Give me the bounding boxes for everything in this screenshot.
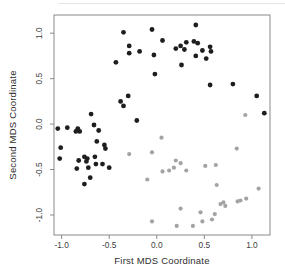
- data-point-cluster-dark: [134, 118, 139, 123]
- y-tick-label: 0.5: [34, 72, 44, 84]
- data-point-cluster-gray: [238, 198, 242, 202]
- data-point-cluster-dark: [178, 44, 183, 49]
- data-point-cluster-dark: [65, 125, 70, 130]
- data-point-cluster-dark: [57, 156, 62, 161]
- data-point-cluster-dark: [208, 44, 213, 49]
- y-tick-label: 0.0: [34, 118, 44, 130]
- data-point-cluster-dark: [121, 104, 126, 109]
- data-point-cluster-dark: [231, 82, 236, 87]
- data-point-cluster-gray: [174, 158, 178, 162]
- data-point-cluster-dark: [153, 72, 158, 77]
- data-point-cluster-gray: [160, 169, 164, 173]
- data-point-cluster-dark: [204, 56, 209, 61]
- data-point-cluster-dark: [84, 159, 89, 164]
- data-point-cluster-gray: [203, 164, 207, 168]
- data-point-cluster-dark: [209, 49, 214, 54]
- data-point-cluster-dark: [93, 154, 98, 159]
- data-point-cluster-gray: [221, 200, 225, 204]
- mds-scatter-figure: -1.0-0.50.00.51.0-1.0-0.50.00.51.0 First…: [0, 0, 285, 278]
- data-point-cluster-gray: [127, 152, 131, 156]
- data-point-cluster-gray: [145, 177, 149, 181]
- data-point-cluster-gray: [210, 217, 214, 221]
- data-point-cluster-dark: [150, 27, 155, 32]
- data-point-cluster-dark: [58, 145, 63, 150]
- data-point-cluster-dark: [127, 44, 132, 49]
- data-point-cluster-dark: [121, 30, 126, 35]
- data-point-cluster-gray: [235, 147, 239, 151]
- data-point-cluster-dark: [96, 128, 101, 133]
- data-point-cluster-dark: [262, 111, 267, 116]
- data-point-cluster-dark: [127, 51, 132, 56]
- data-point-cluster-dark: [195, 41, 200, 46]
- data-point-cluster-dark: [126, 94, 131, 99]
- x-tick-label: 0.0: [151, 240, 163, 250]
- data-point-cluster-dark: [92, 123, 97, 128]
- data-point-cluster-gray: [243, 113, 247, 117]
- data-point-cluster-gray: [179, 207, 183, 211]
- data-point-cluster-dark: [100, 162, 105, 167]
- data-point-cluster-gray: [191, 224, 195, 228]
- data-point-cluster-gray: [213, 212, 217, 216]
- data-point-cluster-gray: [244, 197, 248, 201]
- x-axis-title: First MDS Coordinate: [114, 255, 209, 266]
- x-tick-label: -1.0: [54, 240, 69, 250]
- data-point-cluster-gray: [214, 163, 218, 167]
- data-point-cluster-gray: [223, 204, 227, 208]
- data-point-cluster-gray: [172, 166, 176, 170]
- data-point-cluster-dark: [55, 126, 60, 131]
- data-point-cluster-dark: [94, 139, 99, 144]
- data-point-cluster-dark: [103, 146, 108, 151]
- data-point-cluster-dark: [173, 46, 178, 51]
- data-point-cluster-gray: [184, 168, 188, 172]
- data-point-cluster-dark: [94, 162, 99, 167]
- data-point-cluster-dark: [82, 182, 87, 187]
- data-point-cluster-gray: [200, 219, 204, 223]
- data-point-cluster-gray: [215, 183, 219, 187]
- data-point-cluster-dark: [208, 83, 213, 88]
- data-point-cluster-dark: [254, 94, 259, 99]
- x-tick-label: -0.5: [102, 240, 117, 250]
- data-point-cluster-dark: [88, 175, 93, 180]
- data-point-cluster-dark: [114, 60, 119, 65]
- data-point-cluster-dark: [107, 165, 112, 170]
- data-point-cluster-gray: [167, 168, 171, 172]
- data-point-cluster-dark: [200, 48, 205, 53]
- y-tick-label: -1.0: [34, 207, 44, 222]
- x-tick-label: 0.5: [199, 240, 211, 250]
- data-point-cluster-dark: [77, 129, 82, 134]
- data-point-cluster-dark: [182, 47, 187, 52]
- data-point-cluster-dark: [193, 54, 198, 59]
- data-point-cluster-dark: [152, 53, 157, 58]
- data-point-cluster-dark: [179, 63, 184, 68]
- data-point-cluster-gray: [257, 187, 261, 191]
- data-point-cluster-gray: [159, 136, 163, 140]
- data-point-cluster-dark: [118, 99, 123, 104]
- data-point-cluster-gray: [198, 210, 202, 214]
- data-point-cluster-gray: [175, 224, 179, 228]
- data-point-cluster-dark: [89, 112, 94, 117]
- data-point-cluster-dark: [76, 158, 81, 163]
- data-point-cluster-dark: [86, 165, 91, 170]
- data-point-cluster-dark: [160, 38, 165, 43]
- data-point-cluster-gray: [150, 219, 154, 223]
- mds-scatter-plot: -1.0-0.50.00.51.0-1.0-0.50.00.51.0: [0, 0, 285, 278]
- data-point-cluster-dark: [137, 49, 142, 54]
- x-tick-label: 1.0: [246, 240, 258, 250]
- y-tick-label: -0.5: [34, 162, 44, 177]
- y-tick-label: 1.0: [34, 27, 44, 39]
- data-point-cluster-dark: [184, 40, 189, 45]
- data-point-cluster-gray: [179, 161, 183, 165]
- y-axis-title: Second MDS Coordinate: [7, 70, 18, 179]
- data-point-cluster-dark: [193, 23, 198, 28]
- data-point-cluster-dark: [74, 166, 79, 171]
- data-point-cluster-gray: [150, 150, 154, 154]
